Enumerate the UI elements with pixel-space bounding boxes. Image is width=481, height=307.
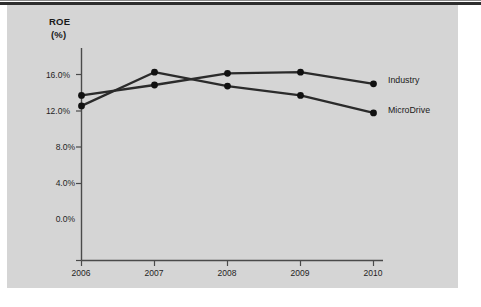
y-tick-marks bbox=[76, 75, 82, 261]
data-point bbox=[224, 83, 231, 90]
data-point bbox=[297, 92, 304, 99]
data-point bbox=[78, 92, 85, 99]
data-point bbox=[224, 70, 231, 77]
series-microdrive-line bbox=[82, 72, 374, 113]
data-point bbox=[151, 69, 158, 76]
data-point bbox=[370, 80, 377, 87]
data-point bbox=[78, 103, 85, 110]
chart-plot-area bbox=[0, 0, 481, 307]
data-point bbox=[151, 82, 158, 89]
x-tick-marks bbox=[82, 261, 374, 267]
data-point bbox=[370, 110, 377, 117]
data-point bbox=[297, 69, 304, 76]
chart-figure: ROE (%) 16.0% 12.0% 8.0% 4.0% 0.0% 2006 … bbox=[0, 0, 481, 307]
